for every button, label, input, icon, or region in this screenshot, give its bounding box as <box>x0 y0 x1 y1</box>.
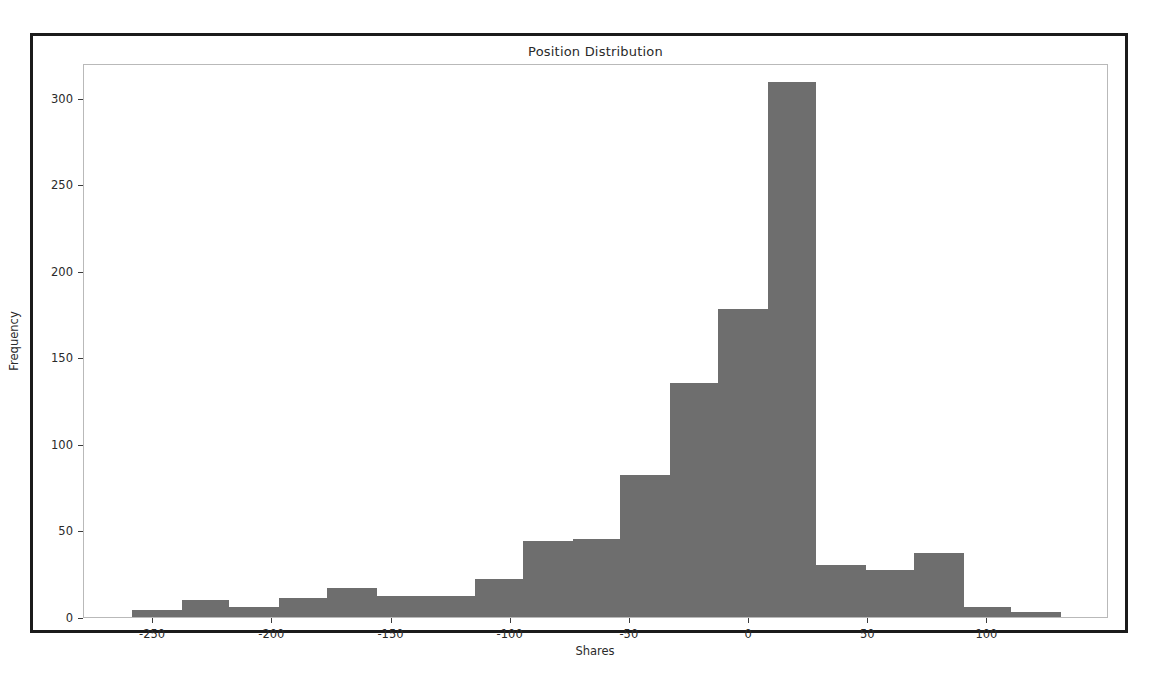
histogram-bar <box>768 82 816 617</box>
x-tick-mark <box>391 618 392 623</box>
y-tick-label: 50 <box>29 524 73 538</box>
y-tick-label: 300 <box>29 92 73 106</box>
histogram-bar <box>670 383 718 617</box>
y-tick-mark <box>78 445 83 446</box>
y-tick-label: 250 <box>29 178 73 192</box>
histogram-bar <box>475 579 523 617</box>
x-tick-mark <box>867 618 868 623</box>
histogram-bar <box>914 553 964 617</box>
histogram-bar <box>327 588 377 617</box>
x-tick-mark <box>152 618 153 623</box>
x-tick-mark <box>271 618 272 623</box>
histogram-bar <box>573 539 621 617</box>
x-tick-mark <box>510 618 511 623</box>
histogram-bar <box>718 309 768 617</box>
y-tick-mark <box>78 531 83 532</box>
chart-title: Position Distribution <box>83 44 1108 59</box>
y-tick-mark <box>78 358 83 359</box>
x-tick-label: 0 <box>713 627 783 641</box>
x-tick-mark <box>748 618 749 623</box>
y-tick-mark <box>78 272 83 273</box>
histogram-bar <box>425 596 475 617</box>
y-tick-label: 200 <box>29 265 73 279</box>
x-tick-label: -250 <box>117 627 187 641</box>
y-tick-mark <box>78 99 83 100</box>
histogram-bar <box>523 541 573 617</box>
x-axis-label: Shares <box>575 644 614 658</box>
x-tick-label: 100 <box>951 627 1021 641</box>
plot-area <box>83 64 1108 618</box>
y-axis-label: Frequency <box>7 311 21 370</box>
histogram-bar <box>816 565 866 617</box>
histogram-bar <box>377 596 425 617</box>
histogram-bar <box>229 607 279 617</box>
x-tick-label: -50 <box>594 627 664 641</box>
histogram-bar <box>620 475 670 617</box>
x-tick-label: -100 <box>475 627 545 641</box>
x-tick-label: 50 <box>832 627 902 641</box>
histogram-bar <box>1011 612 1061 617</box>
x-tick-mark <box>986 618 987 623</box>
histogram-bar <box>182 600 230 617</box>
histogram-bar <box>964 607 1012 617</box>
x-tick-label: -150 <box>356 627 426 641</box>
histogram-bar <box>132 610 182 617</box>
x-tick-label: -200 <box>236 627 306 641</box>
histogram-bar <box>866 570 914 617</box>
y-tick-label: 150 <box>29 351 73 365</box>
x-tick-mark <box>629 618 630 623</box>
y-tick-label: 100 <box>29 438 73 452</box>
y-tick-mark <box>78 618 83 619</box>
y-tick-label: 0 <box>29 611 73 625</box>
y-tick-mark <box>78 185 83 186</box>
chart-canvas: Position Distribution 050100150200250300… <box>0 0 1156 697</box>
histogram-bar <box>279 598 327 617</box>
